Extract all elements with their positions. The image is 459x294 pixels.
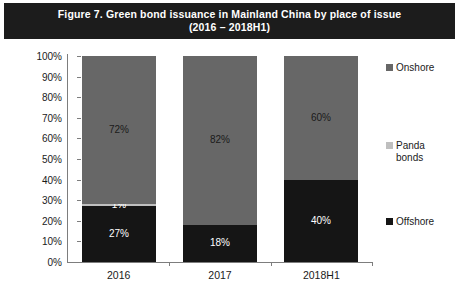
y-axis-tick-label: 0% [18, 257, 62, 268]
bar-segment-panda[interactable]: 1% [82, 204, 156, 206]
legend-swatch-icon [386, 218, 393, 225]
y-axis-tick-label: 100% [18, 51, 62, 62]
bar-segment-value-label: 82% [210, 135, 230, 145]
y-axis-tick-label: 80% [18, 92, 62, 103]
bar-segment-offshore[interactable]: 27% [82, 206, 156, 262]
legend-item-label: Panda bonds [396, 140, 425, 164]
y-axis-tick-label: 30% [18, 195, 62, 206]
bar-stack[interactable]: 40%0%60% [284, 56, 358, 262]
legend-item[interactable]: Offshore [386, 216, 456, 228]
bar-segment-value-label: 60% [311, 113, 331, 123]
legend-item-label: Offshore [396, 216, 434, 228]
plot-area: 27%1%72%18%0%82%40%0%60% [68, 56, 372, 262]
bar-segment-onshore[interactable]: 60% [284, 56, 358, 180]
bar-segment-value-label: 27% [109, 229, 129, 239]
legend-swatch-icon [386, 142, 393, 149]
y-axis-tick-label: 40% [18, 174, 62, 185]
legend-item-label: Onshore [396, 62, 434, 74]
x-axis-tick-label: 2016 [74, 269, 164, 281]
y-axis-tick-label: 20% [18, 215, 62, 226]
bar-segment-offshore[interactable]: 40% [284, 180, 358, 262]
legend-item[interactable]: Onshore [386, 62, 456, 74]
x-axis-tick-mark [169, 262, 170, 266]
bar-segment-offshore[interactable]: 18% [183, 225, 257, 262]
x-axis-tick-label: 2017 [175, 269, 265, 281]
legend-swatch-icon [386, 64, 393, 71]
y-axis-tick-label: 60% [18, 133, 62, 144]
legend-item[interactable]: Panda bonds [386, 140, 456, 164]
y-axis-tick-label: 10% [18, 236, 62, 247]
figure-title-line-2: (2016 – 2018H1) [189, 21, 270, 34]
x-axis-tick-mark [372, 262, 373, 266]
bar-segment-value-label: 40% [311, 216, 331, 226]
bar-segment-value-label: 72% [109, 125, 129, 135]
bar-stack[interactable]: 18%0%82% [183, 56, 257, 262]
y-axis-tick-label: 70% [18, 112, 62, 123]
bar-segment-value-label: 18% [210, 238, 230, 248]
chart-legend: OnshorePanda bondsOffshore [386, 56, 456, 262]
x-axis-tick-label: 2018H1 [276, 269, 366, 281]
x-axis-line [67, 262, 373, 263]
figure-title-line-1: Figure 7. Green bond issuance in Mainlan… [58, 8, 402, 21]
y-axis-labels: 0%10%20%30%40%50%60%70%80%90%100% [14, 0, 62, 294]
y-axis-tick-label: 50% [18, 154, 62, 165]
y-axis-tick-label: 90% [18, 71, 62, 82]
bar-segment-onshore[interactable]: 82% [183, 56, 257, 225]
bar-segment-onshore[interactable]: 72% [82, 56, 156, 204]
figure-container: Figure 7. Green bond issuance in Mainlan… [0, 0, 459, 294]
x-axis-tick-mark [271, 262, 272, 266]
bar-stack[interactable]: 27%1%72% [82, 56, 156, 262]
figure-title-band: Figure 7. Green bond issuance in Mainlan… [4, 3, 455, 39]
